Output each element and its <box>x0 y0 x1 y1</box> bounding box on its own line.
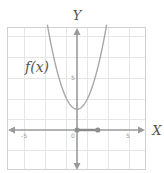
x-tick-5: 5 <box>126 132 130 139</box>
point-origin <box>74 127 79 132</box>
x-axis-right-arrow-icon <box>138 127 145 134</box>
y-axis-up-arrow-icon <box>74 28 81 35</box>
function-graph: -5 0 5 5 Y X f(x) <box>0 0 164 173</box>
x-tick-neg5: -5 <box>21 132 27 139</box>
y-tick-5: 5 <box>71 74 75 81</box>
x-tick-0: 0 <box>71 132 75 139</box>
y-axis-down-arrow-icon <box>74 163 81 170</box>
point-two <box>95 127 100 132</box>
function-label: f(x) <box>24 59 49 75</box>
y-axis-label: Y <box>73 8 83 23</box>
x-axis-left-arrow-icon <box>8 127 15 134</box>
x-axis-label: X <box>151 123 162 138</box>
